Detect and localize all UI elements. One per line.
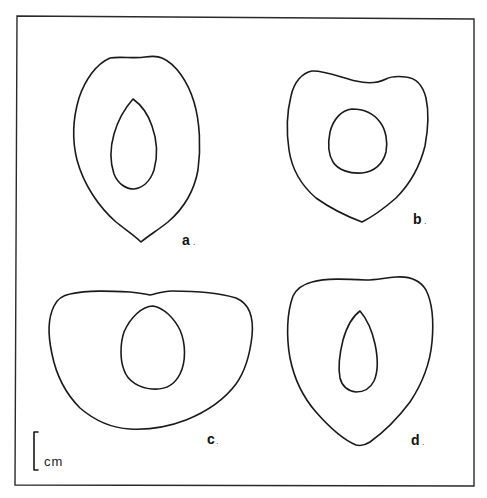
scale-bar-unit: cm xyxy=(44,454,63,469)
cross-section-figure: a . b . c . d . cm xyxy=(0,0,487,498)
panel-label-suffix-b: . xyxy=(424,216,427,226)
scale-bar-bracket xyxy=(34,432,38,470)
scale-bar: cm xyxy=(34,432,63,470)
inner-lumen-a xyxy=(111,99,156,189)
panel-d: d . xyxy=(288,277,433,448)
panel-label-a: a xyxy=(182,232,190,248)
outer-contour-a xyxy=(74,56,200,242)
outer-contour-c xyxy=(49,291,252,429)
inner-lumen-c xyxy=(121,306,185,389)
figure-canvas: a . b . c . d . cm xyxy=(0,0,487,498)
inner-lumen-b xyxy=(329,109,387,173)
panel-b: b . xyxy=(287,71,428,227)
panel-c: c . xyxy=(49,291,252,447)
inner-lumen-d xyxy=(339,311,377,392)
panel-label-suffix-c: . xyxy=(216,436,219,446)
panel-label-suffix-d: . xyxy=(422,437,425,447)
outer-contour-d xyxy=(288,277,433,446)
panel-label-d: d xyxy=(411,432,420,448)
panel-label-b: b xyxy=(413,211,422,227)
panel-a: a . xyxy=(74,56,200,248)
outer-contour-b xyxy=(287,71,428,222)
panel-label-suffix-a: . xyxy=(193,237,196,247)
panel-label-c: c xyxy=(207,431,215,447)
